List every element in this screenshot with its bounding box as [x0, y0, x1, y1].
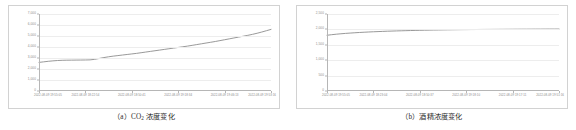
x-axis-tick-label: 2022-08-09 19:17:11	[499, 94, 527, 97]
plot-area-alcohol: 05001,0001,5002,0002,5002022-08-09 19:55…	[327, 14, 559, 91]
caption-subscript: 2	[141, 115, 144, 121]
x-axis-tick-label: 2022-08-09 19:51:16	[536, 94, 564, 97]
gridline-y	[327, 91, 559, 92]
gridline-y	[39, 47, 271, 48]
gridline-y	[39, 14, 271, 15]
gridline-y	[39, 58, 271, 59]
x-axis-tick-label: 2022-08-09 19:55:05	[322, 94, 350, 97]
y-axis-tick-label: 500	[319, 74, 327, 77]
gridline-y	[327, 60, 559, 61]
y-axis-tick-label: 1,000	[28, 78, 39, 81]
y-axis-line-co2	[39, 14, 40, 91]
x-axis-tick-label: 2022-08-09 19:55:05	[34, 94, 62, 97]
y-axis-tick-label: 2,500	[316, 12, 327, 15]
x-axis-tick-label: 2022-08-09 18:50:41	[118, 94, 146, 97]
y-axis-tick-label: 2,000	[316, 28, 327, 31]
gridline-y	[39, 91, 271, 92]
chart-frame-co2: 01,0002,0003,0004,0005,0006,0007,0002022…	[8, 5, 280, 109]
x-axis-tick-label: 2022-08-09 19:18:10	[452, 94, 480, 97]
x-axis-tick-label: 2022-08-09 19:46:13	[211, 94, 239, 97]
plot-area-co2: 01,0002,0003,0004,0005,0006,0007,0002022…	[39, 14, 271, 91]
y-axis-tick-label: 6,000	[28, 23, 39, 26]
x-axis-tick-label: 2022-08-09 19:18:34	[164, 94, 192, 97]
chart-frame-alcohol: 05001,0001,5002,0002,5002022-08-09 19:55…	[296, 5, 568, 109]
gridline-y	[327, 14, 559, 15]
y-axis-tick-label: 4,000	[28, 45, 39, 48]
gridline-y	[39, 80, 271, 81]
x-axis-line-alcohol	[327, 90, 559, 91]
figure-panel-co2: 01,0002,0003,0004,0005,0006,0007,0002022…	[0, 0, 288, 130]
y-axis-tick-label: 3,000	[28, 56, 39, 59]
y-axis-line-alcohol	[327, 14, 328, 91]
figure-caption-co2: （a）CO2 浓度变化	[113, 114, 175, 121]
gridline-y	[327, 29, 559, 30]
x-axis-line-co2	[39, 90, 271, 91]
figure-row: 01,0002,0003,0004,0005,0006,0007,0002022…	[0, 0, 576, 130]
caption-suffix: 浓度变化	[144, 113, 175, 121]
chart-inner-co2: 01,0002,0003,0004,0005,0006,0007,0002022…	[9, 6, 279, 108]
figure-caption-alcohol: （b）酒精浓度变化	[401, 114, 462, 121]
x-axis-tick-label: 2022-08-09 18:22:54	[71, 94, 99, 97]
caption-prefix: （b）酒精浓度变化	[401, 113, 462, 121]
x-axis-tick-label: 2022-08-09 18:23:04	[359, 94, 387, 97]
y-axis-tick-label: 1,500	[316, 43, 327, 46]
gridline-y	[39, 25, 271, 26]
caption-prefix: （a）CO	[113, 113, 141, 121]
gridline-y	[39, 69, 271, 70]
y-axis-tick-label: 1,000	[316, 59, 327, 62]
series-line-alcohol	[327, 14, 559, 91]
y-axis-tick-label: 7,000	[28, 12, 39, 15]
y-axis-tick-label: 5,000	[28, 34, 39, 37]
x-axis-tick-label: 2022-08-09 18:50:37	[406, 94, 434, 97]
gridline-y	[39, 36, 271, 37]
x-axis-tick-label: 2022-08-09 19:53:16	[248, 94, 276, 97]
figure-panel-alcohol: 05001,0001,5002,0002,5002022-08-09 19:55…	[288, 0, 576, 130]
gridline-y	[327, 76, 559, 77]
chart-inner-alcohol: 05001,0001,5002,0002,5002022-08-09 19:55…	[297, 6, 567, 108]
gridline-y	[327, 45, 559, 46]
y-axis-tick-label: 2,000	[28, 67, 39, 70]
